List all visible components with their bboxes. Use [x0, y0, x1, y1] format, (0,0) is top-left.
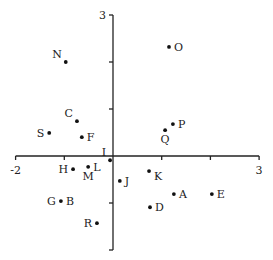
- point-label: D: [155, 201, 164, 214]
- point-label: N: [52, 48, 62, 61]
- data-point: [210, 192, 214, 196]
- point-label: J: [124, 175, 129, 188]
- point-label: I: [102, 146, 106, 159]
- point-label: G: [47, 195, 56, 208]
- data-point: [118, 179, 122, 183]
- data-point: [167, 45, 171, 49]
- data-point: [163, 128, 167, 132]
- data-point: [86, 165, 90, 169]
- point-label: L: [93, 161, 101, 174]
- data-point: [71, 167, 75, 171]
- data-point: [108, 158, 112, 162]
- data-point: [148, 205, 152, 209]
- scatter-chart: -233 ABCDEFGHIJKLMNOPQRS: [0, 0, 273, 260]
- x-tick-label: -2: [10, 164, 21, 177]
- data-point: [95, 221, 99, 225]
- data-points: ABCDEFGHIJKLMNOPQRS: [37, 41, 225, 230]
- data-point: [64, 60, 68, 64]
- y-tick-label: 3: [99, 9, 106, 22]
- point-label: S: [37, 127, 45, 140]
- point-label: A: [178, 188, 188, 201]
- point-label: C: [65, 107, 73, 120]
- point-label: B: [66, 195, 74, 208]
- point-label: R: [84, 217, 93, 230]
- point-label: K: [154, 170, 163, 183]
- point-label: F: [87, 131, 95, 144]
- point-label: E: [217, 188, 225, 201]
- data-point: [171, 122, 175, 126]
- point-label: H: [58, 163, 68, 176]
- data-point: [80, 135, 84, 139]
- data-point: [59, 199, 63, 203]
- point-label: Q: [161, 133, 170, 146]
- point-label: P: [178, 118, 186, 131]
- data-point: [47, 131, 51, 135]
- data-point: [75, 119, 79, 123]
- point-label: O: [174, 41, 183, 54]
- data-point: [172, 192, 176, 196]
- x-tick-label: 3: [256, 164, 263, 177]
- data-point: [147, 169, 151, 173]
- tick-labels: -233: [10, 9, 262, 177]
- point-label: M: [83, 170, 94, 183]
